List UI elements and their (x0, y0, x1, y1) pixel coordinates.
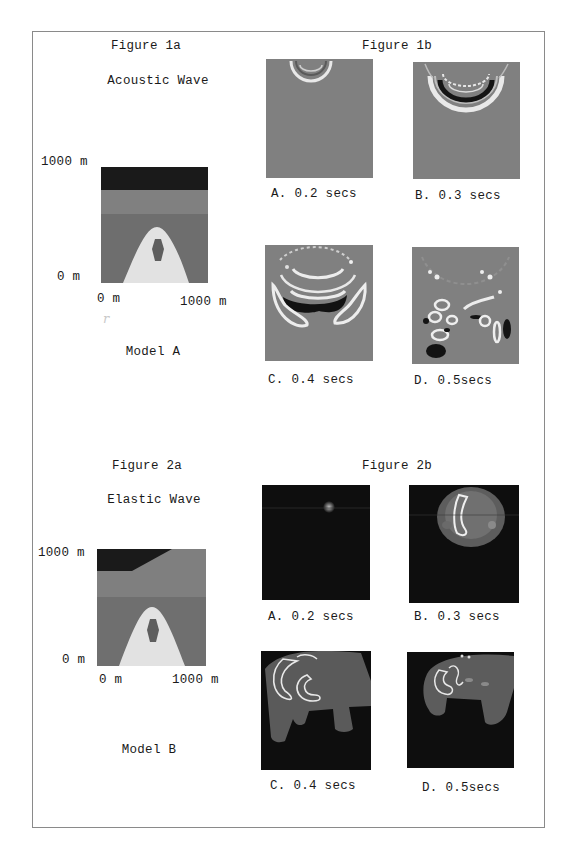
elastic-snapshot-b (409, 485, 519, 603)
elastic-snapshot-b-label: B. 0.3 secs (414, 610, 500, 624)
elastic-snapshot-d (407, 652, 514, 768)
model-b-y-bottom-label: 0 m (62, 653, 85, 667)
acoustic-snapshot-d (412, 247, 519, 364)
model-b-y-top-label: 1000 m (38, 546, 85, 560)
model-b-label: Model B (122, 743, 177, 757)
model-b-x-left-label: 0 m (99, 673, 122, 687)
model-a-x-left-label: 0 m (97, 292, 120, 306)
figure-1b-title: Figure 1b (362, 39, 432, 53)
elastic-snapshot-c-label: C. 0.4 secs (270, 779, 356, 793)
elastic-snapshot-c (261, 651, 371, 770)
figure-2b-title: Figure 2b (362, 459, 432, 473)
figure-2a-title: Figure 2a (112, 459, 182, 473)
acoustic-snapshot-a (266, 59, 373, 178)
model-b-velocity-map (97, 549, 206, 666)
figure-1a-title: Figure 1a (111, 39, 181, 53)
figure-1a-subtitle: Acoustic Wave (107, 74, 208, 88)
acoustic-snapshot-b-label: B. 0.3 secs (415, 189, 501, 203)
model-a-label: Model A (126, 345, 181, 359)
model-b-x-right-label: 1000 m (172, 673, 219, 687)
acoustic-snapshot-c (265, 245, 373, 361)
elastic-snapshot-d-label: D. 0.5secs (422, 781, 500, 795)
acoustic-snapshot-d-label: D. 0.5secs (414, 374, 492, 388)
pencil-mark: r (103, 311, 109, 326)
model-a-x-right-label: 1000 m (180, 295, 227, 309)
acoustic-snapshot-c-label: C. 0.4 secs (268, 373, 354, 387)
figure-2a-subtitle: Elastic Wave (107, 493, 201, 507)
model-a-y-bottom-label: 0 m (57, 270, 80, 284)
acoustic-snapshot-a-label: A. 0.2 secs (271, 187, 357, 201)
acoustic-snapshot-b (413, 62, 520, 179)
model-a-y-top-label: 1000 m (41, 155, 88, 169)
elastic-snapshot-a-label: A. 0.2 secs (268, 610, 354, 624)
model-a-velocity-map (101, 167, 208, 283)
elastic-snapshot-a (262, 485, 370, 600)
